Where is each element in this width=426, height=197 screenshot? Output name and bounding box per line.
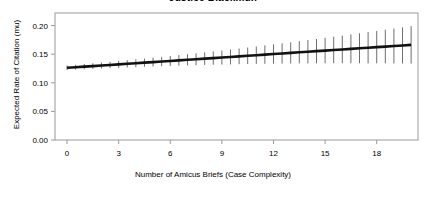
y-tick-label: 0.05 xyxy=(32,107,48,116)
x-tick-label: 18 xyxy=(372,149,381,158)
chart-root: Justice Blackmun Expected Rate of Citati… xyxy=(0,0,426,197)
chart-canvas: 0.000.050.100.150.200369121518 xyxy=(0,0,426,197)
y-tick-label: 0.10 xyxy=(32,79,48,88)
y-tick-label: 0.20 xyxy=(32,22,48,31)
x-axis-label: Number of Amicus Briefs (Case Complexity… xyxy=(0,170,426,179)
x-tick-label: 15 xyxy=(321,149,330,158)
plot-box xyxy=(55,13,418,140)
x-tick-label: 0 xyxy=(65,149,70,158)
x-tick-label: 3 xyxy=(116,149,121,158)
x-tick-label: 12 xyxy=(269,149,278,158)
y-tick-label: 0.00 xyxy=(32,136,48,145)
x-tick-label: 9 xyxy=(220,149,225,158)
y-tick-label: 0.15 xyxy=(32,50,48,59)
x-tick-label: 6 xyxy=(168,149,173,158)
